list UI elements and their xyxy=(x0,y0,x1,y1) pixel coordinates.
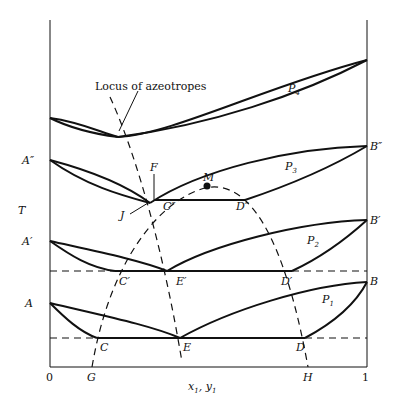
panel-label-p2: P2 xyxy=(306,234,319,249)
label-d1: D′ xyxy=(280,275,293,288)
y-axis-label: T xyxy=(18,204,27,217)
panel-label-p1: P1 xyxy=(321,293,334,308)
label-a1: A′ xyxy=(21,235,33,248)
label-b: B xyxy=(369,275,378,288)
phase-diagram: Locus of azeotropes A″ A′ A T B″ B′ B P4… xyxy=(0,0,401,407)
label-c1: C′ xyxy=(119,275,130,288)
x-tick-1: 1 xyxy=(362,371,369,384)
label-f: F xyxy=(149,161,158,174)
label-m: M xyxy=(202,171,215,184)
label-b1: B′ xyxy=(369,214,381,227)
panel-p1 xyxy=(50,282,367,338)
panel-p4 xyxy=(50,60,367,137)
locus-leader xyxy=(119,91,138,131)
label-d: D xyxy=(295,341,305,354)
label-c2: C″ xyxy=(163,200,176,213)
panel-label-p4: P4 xyxy=(287,82,300,97)
panel-p2 xyxy=(50,220,367,271)
label-b2: B″ xyxy=(369,140,383,153)
label-a: A xyxy=(24,297,33,310)
label-e1: E′ xyxy=(175,275,187,288)
x-axis-label: x1, y1 xyxy=(188,380,216,395)
x-tick-0: 0 xyxy=(46,371,53,384)
label-e: E xyxy=(182,341,191,354)
label-a2: A″ xyxy=(21,154,35,167)
j-leader xyxy=(130,203,148,214)
label-c: C xyxy=(100,341,109,354)
label-j: J xyxy=(118,209,125,222)
panel-label-p3: P3 xyxy=(284,160,297,175)
annotation-locus: Locus of azeotropes xyxy=(95,80,207,93)
label-g: G xyxy=(87,371,96,384)
label-d2: D″ xyxy=(235,200,250,213)
label-h: H xyxy=(302,371,313,384)
